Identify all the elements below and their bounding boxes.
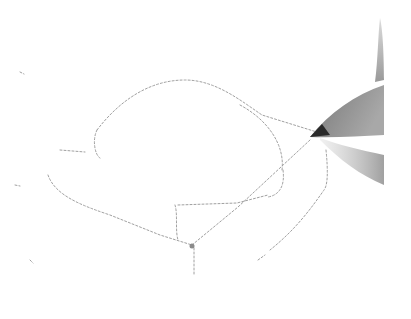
sketch-vertex-mark [190, 244, 195, 249]
sketch-illustration [0, 0, 411, 319]
pencil-sketch-photo: Hand-drawn pencil sketch with a pencil t… [0, 0, 411, 319]
